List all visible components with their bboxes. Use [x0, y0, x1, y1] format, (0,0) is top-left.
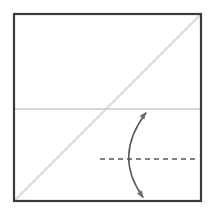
- geometric-figure: Geometric folding diagram Square outline…: [0, 0, 215, 217]
- diagram-canvas: Geometric folding diagram Square outline…: [0, 0, 215, 217]
- diagonal-crease-line: [14, 14, 201, 201]
- fold-motion-arc: [129, 113, 146, 197]
